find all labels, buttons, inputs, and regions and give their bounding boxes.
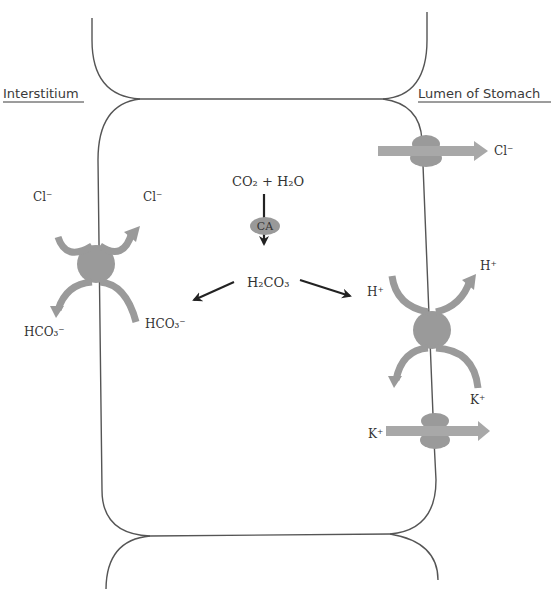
cell-membrane [92,12,438,589]
k-in-label: K⁺ [470,393,485,407]
enzyme-label: CA [257,220,274,233]
cl-in-label: Cl⁻ [33,190,52,204]
lumen-label: Lumen of Stomach [418,86,540,101]
parietal-cell-diagram: Interstitium Lumen of Stomach CO₂ + H₂O … [0,0,552,589]
interstitium-label: Interstitium [3,86,79,101]
cl-out-label: Cl⁻ [143,190,162,204]
h-out-label: H⁺ [480,259,497,273]
reactants-label: CO₂ + H₂O [232,174,304,189]
carbonic-anhydrase-reaction: CO₂ + H₂O CA H₂CO₃ [194,174,350,300]
hco3-in-label: HCO₃⁻ [145,317,186,331]
h-in-label: H⁺ [367,285,384,299]
k-channel-label: K⁺ [368,427,383,441]
hco3-out-label: HCO₃⁻ [24,325,65,339]
k-channel: K⁺ [368,413,490,449]
cl-channel: Cl⁻ [378,135,513,167]
cl-channel-label: Cl⁻ [494,144,513,158]
product-label: H₂CO₃ [247,275,289,290]
cl-hco3-exchanger: Cl⁻ Cl⁻ HCO₃⁻ HCO₃⁻ [24,190,186,339]
